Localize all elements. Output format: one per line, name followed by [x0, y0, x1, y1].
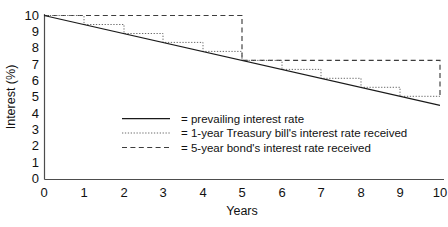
x-tick-8: 8 — [357, 185, 364, 200]
interest-rate-chart: Interest (%) 10 9 8 7 6 5 4 3 2 1 0 = pr… — [0, 0, 448, 227]
y-tick-3: 3 — [32, 122, 39, 137]
x-tick-10: 10 — [433, 185, 447, 200]
y-tick-5: 5 — [32, 89, 39, 104]
chart-svg: Interest (%) 10 9 8 7 6 5 4 3 2 1 0 = pr… — [0, 0, 448, 227]
x-tick-1: 1 — [80, 185, 87, 200]
x-tick-5: 5 — [238, 185, 245, 200]
y-tick-10: 10 — [25, 8, 39, 23]
x-tick-7: 7 — [317, 185, 324, 200]
y-tick-9: 9 — [32, 24, 39, 39]
legend-label-tbill: = 1-year Treasury bill's interest rate r… — [181, 127, 407, 139]
x-axis-title: Years — [226, 204, 258, 218]
y-tick-4: 4 — [32, 106, 39, 121]
y-tick-6: 6 — [32, 73, 39, 88]
legend-label-prevailing: = prevailing interest rate — [181, 113, 304, 125]
x-tick-6: 6 — [278, 185, 285, 200]
y-tick-7: 7 — [32, 57, 39, 72]
x-tick-9: 9 — [396, 185, 403, 200]
x-tick-0: 0 — [40, 185, 47, 200]
x-tick-4: 4 — [199, 185, 206, 200]
x-tick-2: 2 — [120, 185, 127, 200]
x-tick-3: 3 — [159, 185, 166, 200]
y-axis-title: Interest (%) — [4, 65, 18, 130]
y-tick-2: 2 — [32, 138, 39, 153]
y-tick-0: 0 — [32, 171, 39, 186]
y-tick-1: 1 — [32, 155, 39, 170]
legend-label-bond: = 5-year bond's interest rate received — [181, 142, 371, 154]
y-tick-8: 8 — [32, 40, 39, 55]
